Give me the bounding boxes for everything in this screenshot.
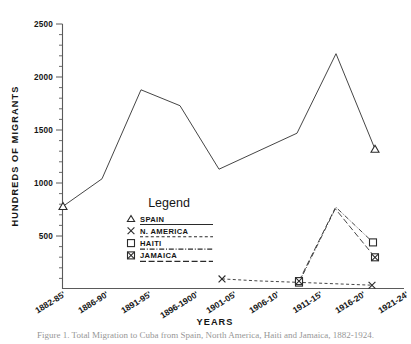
x-tick-label: 1906-10' (247, 289, 281, 315)
x-tick-label: 1886-90' (76, 289, 110, 315)
legend-label: HAITI (140, 239, 162, 248)
x-axis-title: YEARS (196, 317, 233, 327)
haiti-square-marker (370, 239, 377, 246)
x-tick-label: 1901-05' (204, 289, 238, 315)
x-tick-label: 1882-85' (33, 289, 67, 315)
series-spain (59, 54, 379, 210)
legend-entry-n-america[interactable]: N. AMERICA (128, 227, 213, 237)
jamaica-line (299, 208, 375, 281)
x-tick-label: 1896-1900' (158, 289, 200, 320)
y-tick-label: 2500 (34, 20, 53, 29)
figure-caption: Figure 1. Total Migration to Cuba from S… (0, 330, 411, 340)
legend-entry-jamaica[interactable]: JAMAICA (128, 251, 214, 261)
migration-line-chart-figure: 2500 2000 1500 1000 500 HUNDREDS OF MIGR… (0, 0, 411, 344)
spain-triangle-marker (59, 203, 67, 210)
series-jamaica (296, 208, 379, 284)
legend-title: Legend (148, 196, 190, 210)
y-tick-label: 2000 (34, 73, 53, 82)
jamaica-crossed-square-marker (296, 278, 303, 285)
square-icon (128, 240, 135, 247)
x-tick-labels: 1882-85' 1886-90' 1891-95' 1896-1900' 19… (33, 289, 410, 320)
x-tick-label: 1916-20' (333, 289, 367, 315)
y-tick-label: 1000 (34, 179, 53, 188)
spain-line (63, 54, 375, 207)
legend-label: JAMAICA (140, 251, 177, 260)
jamaica-crossed-square-marker (372, 254, 379, 261)
y-tick-label: 1500 (34, 126, 53, 135)
cross-icon (128, 227, 135, 234)
triangle-icon (127, 216, 134, 222)
x-tick-label: 1911-15' (291, 289, 324, 315)
chart-legend: Legend SPAIN N. AMERICA HAITI (127, 196, 213, 261)
chart-plot-area: 2500 2000 1500 1000 500 HUNDREDS OF MIGR… (0, 0, 411, 344)
series-haiti (296, 207, 377, 286)
legend-entry-spain[interactable]: SPAIN (127, 215, 213, 225)
x-tick-label: 1891-95' (119, 289, 153, 315)
y-tick-labels: 2500 2000 1500 1000 500 (34, 20, 53, 241)
x-tick-label: 1921-24' (376, 289, 410, 315)
legend-entry-haiti[interactable]: HAITI (128, 239, 214, 249)
haiti-line (299, 207, 373, 282)
y-tick-label: 500 (39, 232, 54, 241)
spain-triangle-marker (371, 145, 379, 152)
legend-label: SPAIN (140, 215, 164, 224)
crossed-square-icon (128, 252, 135, 259)
legend-label: N. AMERICA (140, 227, 189, 236)
figure-caption-band: Figure 1. Total Migration to Cuba from S… (0, 330, 411, 344)
y-axis-title: HUNDREDS OF MIGRANTS (10, 86, 20, 227)
